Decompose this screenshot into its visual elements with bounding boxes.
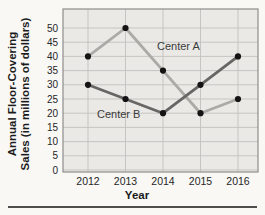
series-label-center-a: Center A [157, 40, 200, 52]
data-point [197, 110, 203, 116]
x-tick-label: 2016 [226, 175, 250, 187]
bottom-divider-rule [8, 206, 257, 208]
sales-chart-figure: 0510152025303540455020122013201420152016… [0, 0, 265, 215]
y-tick-label: 15 [47, 122, 59, 133]
data-point [85, 53, 91, 59]
y-tick-label: 5 [52, 150, 58, 161]
data-point [122, 96, 128, 102]
data-point [235, 96, 241, 102]
y-tick-label: 0 [52, 165, 58, 176]
data-point [197, 82, 203, 88]
x-tick-label: 2015 [189, 175, 213, 187]
y-tick-label: 10 [47, 136, 59, 147]
plot-area [63, 9, 258, 172]
x-axis-title: Year [65, 189, 209, 201]
y-axis-title: Annual Floor-Covering Sales (in millions… [6, 9, 34, 179]
y-tick-label: 45 [47, 37, 59, 48]
data-point [160, 110, 166, 116]
data-point [85, 82, 91, 88]
y-tick-label: 40 [47, 51, 59, 62]
y-tick-label: 35 [47, 65, 59, 76]
data-point [160, 68, 166, 74]
series-label-center-b: Center B [97, 108, 140, 120]
y-axis-title-line1: Annual Floor-Covering [6, 9, 19, 179]
y-tick-label: 20 [47, 108, 59, 119]
y-tick-label: 50 [47, 23, 59, 34]
y-tick-label: 30 [47, 79, 59, 90]
y-axis-title-line2: Sales (in millions of dollars) [19, 9, 32, 179]
x-tick-label: 2012 [76, 175, 100, 187]
y-tick-label: 25 [47, 94, 59, 105]
data-point [122, 25, 128, 31]
x-tick-label: 2014 [151, 175, 175, 187]
data-point [235, 53, 241, 59]
x-tick-label: 2013 [114, 175, 138, 187]
